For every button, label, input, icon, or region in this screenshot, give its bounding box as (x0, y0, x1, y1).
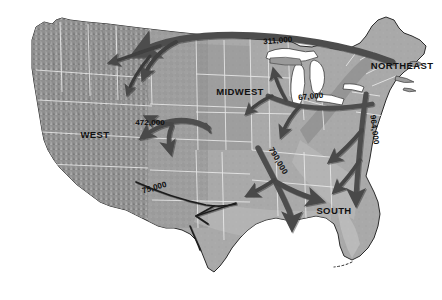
map-canvas: WEST MIDWEST SOUTH NORTHEAST 311,000 67,… (0, 0, 442, 300)
region-label-south: SOUTH (316, 205, 351, 216)
region-label-midwest: MIDWEST (216, 86, 264, 97)
flow-label-472000: 472,000 (135, 118, 165, 127)
region-label-west: WEST (80, 129, 109, 140)
region-label-northeast: NORTHEAST (371, 60, 434, 71)
migration-flow-map: WEST MIDWEST SOUTH NORTHEAST 311,000 67,… (0, 0, 442, 300)
